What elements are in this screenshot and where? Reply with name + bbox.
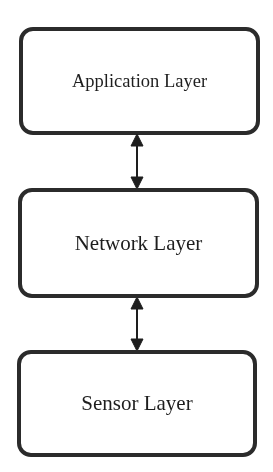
network-layer-box: Network Layer	[18, 188, 259, 298]
sensor-layer-box: Sensor Layer	[17, 350, 257, 457]
network-layer-label: Network Layer	[75, 231, 203, 256]
sensor-layer-label: Sensor Layer	[81, 391, 192, 416]
